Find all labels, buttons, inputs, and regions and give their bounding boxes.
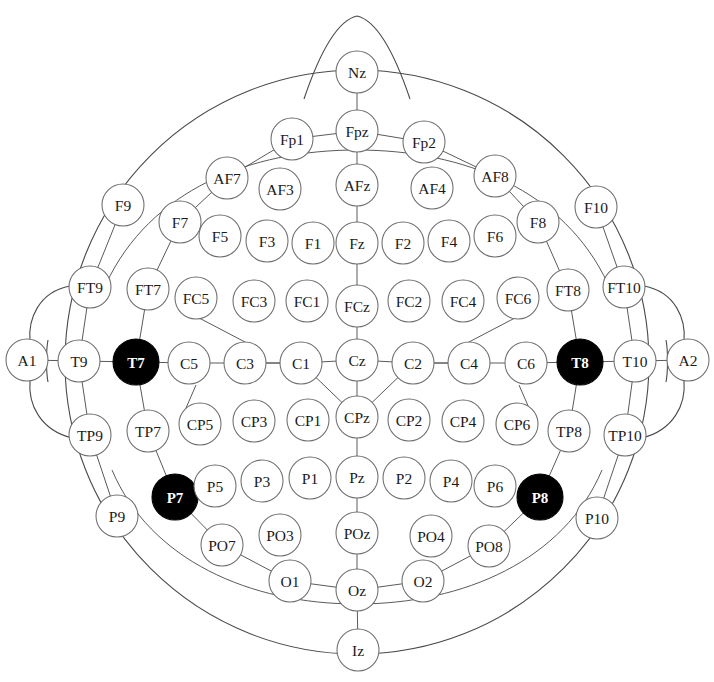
electrode-circle-fp2[interactable] [403, 121, 445, 163]
electrode-circle-fc4[interactable] [442, 280, 484, 322]
electrode-cpz[interactable]: CPz [336, 396, 378, 438]
electrode-circle-f6[interactable] [474, 215, 516, 257]
electrode-circle-af3[interactable] [259, 168, 301, 210]
electrode-circle-poz[interactable] [336, 512, 378, 554]
electrode-circle-cz[interactable] [336, 339, 378, 381]
electrode-circle-c4[interactable] [448, 342, 490, 384]
electrode-fcz[interactable]: FCz [336, 285, 378, 327]
electrode-t8[interactable]: T8 [557, 339, 603, 385]
electrode-circle-f4[interactable] [428, 220, 470, 262]
electrode-circle-p1[interactable] [289, 457, 331, 499]
electrode-ft7[interactable]: FT7 [127, 268, 169, 310]
electrode-fpz[interactable]: Fpz [336, 110, 378, 152]
electrode-circle-f8[interactable] [517, 201, 559, 243]
electrode-fp1[interactable]: Fp1 [271, 118, 313, 160]
electrode-p6[interactable]: P6 [474, 465, 516, 507]
electrode-f4[interactable]: F4 [428, 220, 470, 262]
electrode-circle-fc1[interactable] [286, 280, 328, 322]
electrode-nz[interactable]: Nz [336, 51, 378, 93]
electrode-p7[interactable]: P7 [152, 474, 198, 520]
electrode-circle-f10[interactable] [575, 186, 617, 228]
electrode-circle-po3[interactable] [259, 514, 301, 556]
electrode-circle-ft7[interactable] [127, 268, 169, 310]
electrode-circle-c2[interactable] [392, 342, 434, 384]
electrode-f8[interactable]: F8 [517, 201, 559, 243]
electrode-circle-p5[interactable] [194, 465, 236, 507]
electrode-circle-cp5[interactable] [179, 403, 221, 445]
electrode-circle-fz[interactable] [336, 222, 378, 264]
electrode-po4[interactable]: PO4 [410, 515, 452, 557]
electrode-cz[interactable]: Cz [336, 339, 378, 381]
electrode-c1[interactable]: C1 [280, 342, 322, 384]
electrode-p8[interactable]: P8 [517, 474, 563, 520]
electrode-circle-afz[interactable] [336, 164, 378, 206]
electrode-circle-ft10[interactable] [603, 266, 645, 308]
electrode-circle-pz[interactable] [336, 456, 378, 498]
electrode-fc2[interactable]: FC2 [388, 280, 430, 322]
electrode-cp5[interactable]: CP5 [179, 403, 221, 445]
electrode-circle-tp7[interactable] [127, 410, 169, 452]
electrode-circle-fc5[interactable] [175, 277, 217, 319]
electrode-circle-cp3[interactable] [233, 400, 275, 442]
electrode-c3[interactable]: C3 [224, 342, 266, 384]
electrode-circle-oz[interactable] [336, 569, 378, 611]
electrode-f2[interactable]: F2 [382, 222, 424, 264]
electrode-circle-p3[interactable] [241, 460, 283, 502]
electrode-circle-ft9[interactable] [69, 266, 111, 308]
electrode-circle-nz[interactable] [336, 51, 378, 93]
electrode-circle-p2[interactable] [383, 457, 425, 499]
electrode-f7[interactable]: F7 [159, 201, 201, 243]
electrode-po8[interactable]: PO8 [468, 525, 510, 567]
electrode-a1[interactable]: A1 [6, 339, 48, 381]
electrode-circle-t8[interactable] [557, 339, 603, 385]
electrode-cp1[interactable]: CP1 [287, 399, 329, 441]
electrode-p5[interactable]: P5 [194, 465, 236, 507]
electrode-circle-f5[interactable] [199, 215, 241, 257]
electrode-circle-po8[interactable] [468, 525, 510, 567]
electrode-circle-p7[interactable] [152, 474, 198, 520]
electrode-circle-p6[interactable] [474, 465, 516, 507]
electrode-p10[interactable]: P10 [576, 497, 618, 539]
electrode-cp4[interactable]: CP4 [442, 400, 484, 442]
electrode-cp2[interactable]: CP2 [388, 399, 430, 441]
electrode-af7[interactable]: AF7 [206, 157, 248, 199]
electrode-circle-tp8[interactable] [548, 410, 590, 452]
electrode-circle-po7[interactable] [201, 524, 243, 566]
electrode-fc3[interactable]: FC3 [233, 280, 275, 322]
electrode-f9[interactable]: F9 [102, 184, 144, 226]
electrode-o2[interactable]: O2 [402, 560, 444, 602]
electrode-oz[interactable]: Oz [336, 569, 378, 611]
electrode-circle-af7[interactable] [206, 157, 248, 199]
electrode-circle-fc2[interactable] [388, 280, 430, 322]
electrode-circle-c5[interactable] [168, 342, 210, 384]
electrode-circle-af8[interactable] [474, 155, 516, 197]
electrode-fc6[interactable]: FC6 [497, 277, 539, 319]
electrode-c2[interactable]: C2 [392, 342, 434, 384]
electrode-circle-c6[interactable] [505, 342, 547, 384]
electrode-circle-fp1[interactable] [271, 118, 313, 160]
electrode-circle-cp4[interactable] [442, 400, 484, 442]
electrode-po7[interactable]: PO7 [201, 524, 243, 566]
electrode-p2[interactable]: P2 [383, 457, 425, 499]
electrode-circle-cp1[interactable] [287, 399, 329, 441]
electrode-circle-f7[interactable] [159, 201, 201, 243]
electrode-cp6[interactable]: CP6 [496, 403, 538, 445]
electrode-circle-fcz[interactable] [336, 285, 378, 327]
electrode-pz[interactable]: Pz [336, 456, 378, 498]
electrode-circle-af4[interactable] [411, 167, 453, 209]
electrode-circle-p9[interactable] [96, 495, 138, 537]
electrode-iz[interactable]: Iz [337, 629, 379, 671]
electrode-circle-cp6[interactable] [496, 403, 538, 445]
electrode-circle-o2[interactable] [402, 560, 444, 602]
electrode-ft8[interactable]: FT8 [547, 269, 589, 311]
electrode-a2[interactable]: A2 [667, 339, 709, 381]
electrode-ft10[interactable]: FT10 [603, 266, 645, 308]
electrode-circle-a2[interactable] [667, 339, 709, 381]
electrode-circle-tp9[interactable] [69, 414, 111, 456]
electrode-circle-po4[interactable] [410, 515, 452, 557]
electrode-circle-cp2[interactable] [388, 399, 430, 441]
electrode-p4[interactable]: P4 [430, 460, 472, 502]
electrode-circle-tp10[interactable] [604, 414, 646, 456]
electrode-circle-cpz[interactable] [336, 396, 378, 438]
electrode-f10[interactable]: F10 [575, 186, 617, 228]
